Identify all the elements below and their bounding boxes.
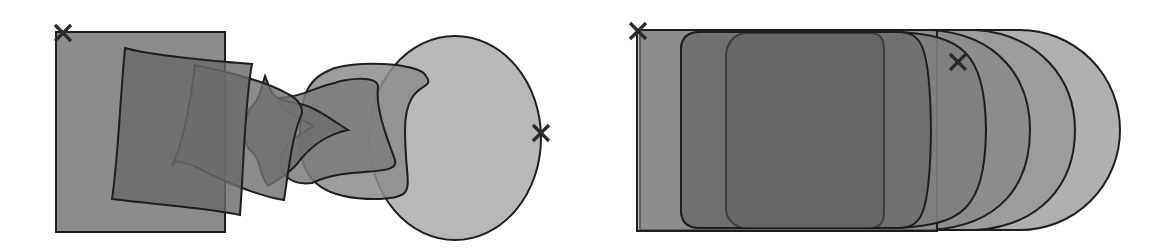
right-panel — [630, 23, 1120, 231]
morph-diagram — [0, 0, 1172, 248]
right-inner-rounded-square — [726, 33, 884, 228]
left-panel — [55, 25, 549, 240]
left-skewed-square-1 — [112, 48, 252, 215]
